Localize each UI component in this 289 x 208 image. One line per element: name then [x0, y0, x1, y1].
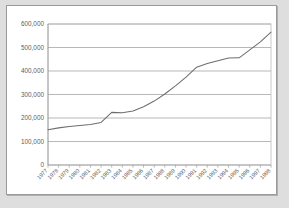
data-series-line: [48, 32, 271, 130]
x-axis-tick-label: 1995: [227, 167, 240, 180]
y-axis-tick-label: 300,000: [21, 91, 45, 98]
y-axis-tick-label: 600,000: [21, 20, 45, 27]
y-axis-tick-label: 100,000: [21, 138, 45, 145]
x-axis-tick-label: 1977: [36, 167, 49, 180]
x-axis-tick-label: 1991: [184, 167, 197, 180]
x-axis-tick-label: 1981: [78, 167, 91, 180]
x-axis-tick-label: 1982: [89, 167, 102, 180]
x-axis-tick-label: 1992: [195, 167, 208, 180]
x-axis-tick-label: 1984: [110, 167, 123, 180]
x-axis-tick-label: 1990: [174, 167, 187, 180]
y-axis-tick-label: 400,000: [21, 67, 45, 74]
x-axis-tick-label: 1994: [216, 167, 229, 180]
y-axis-tick-label: 500,000: [21, 44, 45, 51]
x-axis-tick-label: 1989: [163, 167, 176, 180]
x-axis-labels-group: 1977197819791980198119821983198419851986…: [36, 167, 272, 180]
x-axis-tick-label: 1986: [131, 167, 144, 180]
x-axis-tick-label: 1996: [237, 167, 250, 180]
x-axis-tick-label: 1979: [57, 167, 70, 180]
y-axis-tick-label: 200,000: [21, 114, 45, 121]
x-axis-tick-label: 1983: [99, 167, 112, 180]
chart-canvas: 600,000500,000400,000300,000200,000100,0…: [7, 6, 278, 196]
x-axis-tick-label: 1988: [152, 167, 165, 180]
x-axis-tick-label: 1985: [121, 167, 134, 180]
y-axis-labels-group: 600,000500,000400,000300,000200,000100,0…: [21, 20, 45, 168]
x-axis-tick-label: 1978: [46, 167, 59, 180]
x-axis-tick-label: 1997: [248, 167, 261, 180]
chart-frame: 600,000500,000400,000300,000200,000100,0…: [6, 5, 277, 195]
line-chart: 600,000500,000400,000300,000200,000100,0…: [7, 6, 276, 194]
gridlines-group: [48, 24, 271, 142]
x-axis-tick-label: 1980: [68, 167, 81, 180]
x-axis-tick-label: 1987: [142, 167, 155, 180]
x-axis-tick-label: 1993: [206, 167, 219, 180]
x-axis-tick-label: 1998: [259, 167, 272, 180]
